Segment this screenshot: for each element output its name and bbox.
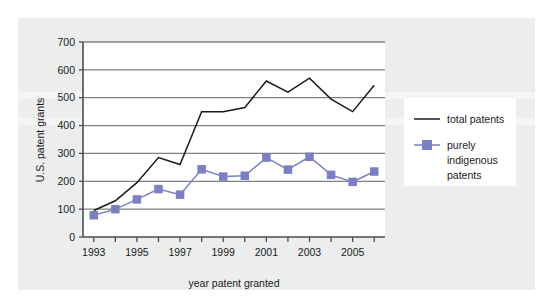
data-point-1998 (197, 165, 206, 174)
data-point-2001 (262, 153, 271, 162)
y-tick-label-0: 0 (69, 231, 75, 243)
y-tick-label-600: 600 (57, 64, 75, 76)
y-tick-label-400: 400 (57, 119, 75, 131)
y-tick-label-200: 200 (57, 175, 75, 187)
data-point-1997 (176, 190, 185, 199)
data-point-1999 (219, 172, 228, 181)
data-point-2005 (348, 178, 357, 187)
x-axis-ticks: 1993199519971999200120032005 (82, 237, 374, 258)
x-tick-label-2003: 2003 (298, 246, 322, 258)
data-point-1995 (133, 195, 142, 204)
y-axis-title: U.S. patent grants (34, 98, 46, 183)
x-tick-label-1999: 1999 (212, 246, 236, 258)
y-tick-label-700: 700 (57, 36, 75, 48)
chart-legend: total patents purely indigenous patents (404, 98, 516, 186)
x-tick-label-1995: 1995 (125, 246, 149, 258)
y-tick-label-100: 100 (57, 203, 75, 215)
data-point-2006 (370, 167, 379, 176)
y-tick-label-300: 300 (57, 147, 75, 159)
y-tick-label-500: 500 (57, 91, 75, 103)
x-tick-label-1993: 1993 (82, 246, 106, 258)
legend-label-purely-line3: patents (447, 169, 481, 181)
plot-area (83, 42, 385, 237)
data-point-1994 (111, 205, 120, 214)
figure-root: 0100200300400500600700 19931995199719992… (0, 0, 553, 308)
x-tick-label-2001: 2001 (255, 246, 279, 258)
data-point-2000 (241, 171, 250, 180)
data-point-1996 (154, 185, 163, 194)
legend-swatch-marker-purely-indigenous-patents (422, 140, 432, 150)
legend-label-purely-line2: indigenous (447, 154, 498, 166)
data-point-2003 (305, 153, 314, 162)
data-point-2004 (327, 171, 336, 180)
data-point-1993 (90, 211, 99, 220)
x-axis-title: year patent granted (188, 277, 279, 289)
line-chart: 0100200300400500600700 19931995199719992… (0, 0, 553, 308)
x-tick-label-1997: 1997 (168, 246, 192, 258)
legend-label-purely-line1: purely (447, 139, 476, 151)
y-axis-ticks: 0100200300400500600700 (57, 36, 83, 243)
legend-label-total-patents: total patents (447, 113, 504, 125)
x-tick-label-2005: 2005 (341, 246, 365, 258)
data-point-2002 (284, 165, 293, 174)
